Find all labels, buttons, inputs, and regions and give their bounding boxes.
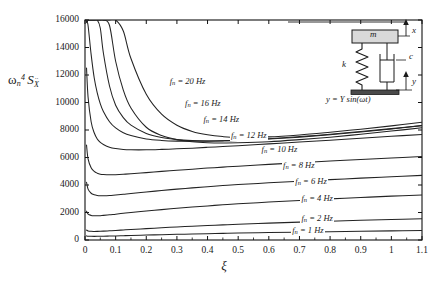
curve-label-value: = 10 Hz	[267, 144, 297, 154]
x-tick-label: 1.1	[402, 246, 442, 256]
curve-label: fn = 20 Hz	[169, 77, 207, 87]
spring-label: k	[342, 60, 346, 69]
curve-label: fn = 4 Hz	[300, 194, 333, 204]
curve-label: fn = 2 Hz	[300, 214, 333, 224]
base-excitation-equation: y = Y sin(ωt)	[326, 94, 371, 104]
mass-label: m	[370, 30, 377, 39]
curve-label-value: = 1 Hz	[298, 225, 324, 235]
curve-label-value: = 2 Hz	[307, 213, 333, 223]
x-displacement-label: x	[412, 26, 416, 35]
y-displacement-label: y	[412, 77, 416, 86]
y-tick-label: 0	[23, 235, 79, 245]
y-tick-label: 4000	[23, 180, 79, 190]
damper-label: c	[409, 52, 413, 61]
curve-label-value: = 4 Hz	[307, 193, 333, 203]
curve-label-value: = 20 Hz	[175, 76, 205, 86]
y-tick-label: 2000	[23, 208, 79, 218]
curve-label: fn = 12 Hz	[230, 131, 268, 141]
y-tick-label: 12000	[23, 70, 79, 80]
y-arrow-head	[403, 71, 409, 77]
curve-label-value: = 6 Hz	[301, 176, 327, 186]
y-tick-label: 14000	[23, 43, 79, 53]
curve-label: fn = 16 Hz	[184, 99, 222, 109]
curve-label-value: = 16 Hz	[191, 98, 221, 108]
y-tick-label: 6000	[23, 153, 79, 163]
curve-label-value: = 14 Hz	[209, 114, 239, 124]
curve-label-value: = 12 Hz	[237, 130, 267, 140]
curve-label: fn = 8 Hz	[282, 161, 315, 171]
spring-element	[356, 43, 368, 90]
mass-spring-damper-diagram: m k c x y y = Y sin(ωt)	[330, 16, 422, 108]
figure-root: ωn4S··X ξ 020004000600080001000012000140…	[0, 0, 448, 288]
curve-label: fn = 10 Hz	[261, 145, 299, 155]
y-tick-label: 10000	[23, 98, 79, 108]
y-tick-label: 8000	[23, 125, 79, 135]
curve-label: fn = 6 Hz	[294, 177, 327, 187]
curve-label: fn = 14 Hz	[202, 115, 240, 125]
curve-label: fn = 1 Hz	[291, 226, 324, 236]
curve-label-value: = 8 Hz	[289, 160, 315, 170]
y-tick-label: 16000	[23, 15, 79, 25]
